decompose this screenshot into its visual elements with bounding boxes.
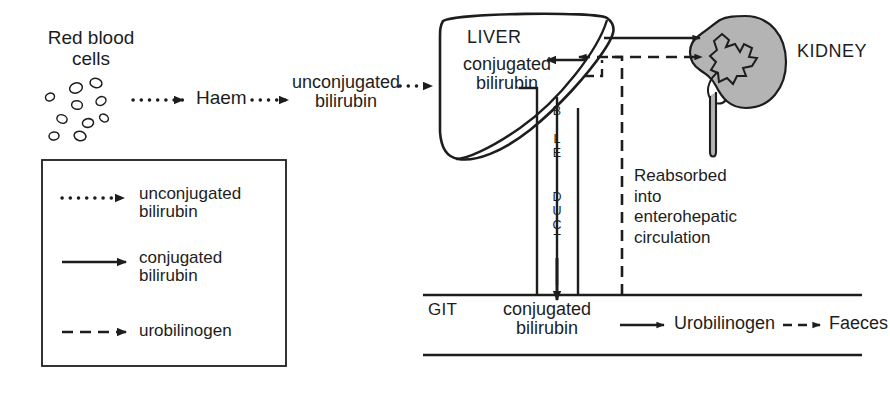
legend-item-1-line-2: bilirubin — [139, 267, 222, 285]
red-blood-cells-label: Red blood cells — [26, 28, 156, 69]
duct-letter-1: U — [552, 204, 561, 218]
rbc-line-2: cells — [26, 49, 156, 70]
unconjugated-bilirubin-label: unconjugated bilirubin — [288, 73, 404, 112]
ureter — [710, 92, 716, 157]
bilirubin-metabolism-diagram: Red blood cells Haem unconjugated biliru… — [0, 0, 890, 393]
rbc-line-1: Red blood — [26, 28, 156, 49]
legend-item-1-line-1: conjugated — [139, 249, 222, 267]
git-conj-line-2: bilirubin — [489, 319, 605, 338]
legend-item-0-label: unconjugated bilirubin — [139, 185, 241, 222]
liver-conjugated-bilirubin-label: conjugated bilirubin — [449, 55, 565, 94]
git-label: GIT — [428, 301, 457, 319]
liver-label: LIVER — [467, 28, 522, 47]
red-blood-cells-glyph — [44, 77, 110, 142]
reabsorbed-label: Reabsorbed into enterohepatic circulatio… — [634, 166, 737, 249]
liver-conj-line-2: bilirubin — [449, 74, 565, 93]
legend-item-1-label: conjugated bilirubin — [139, 249, 222, 286]
duct-letter-3: T — [553, 232, 561, 246]
bile-duct-label-top: B I L E — [550, 104, 564, 160]
kidney-label: KIDNEY — [797, 42, 867, 61]
bile-letter-2: L — [554, 132, 561, 146]
git-conj-line-1: conjugated — [489, 300, 605, 319]
reabsorbed-line-2: into — [634, 187, 737, 208]
bile-letter-1: I — [555, 118, 558, 132]
urobilinogen-label: Urobilinogen — [674, 314, 775, 333]
haem-label: Haem — [196, 88, 247, 109]
legend-item-0-line-1: unconjugated — [139, 185, 241, 203]
liver-conj-line-1: conjugated — [449, 55, 565, 74]
reabsorbed-line-3: enterohepatic — [634, 207, 737, 228]
bile-letter-0: B — [553, 104, 561, 118]
duct-letter-0: D — [552, 190, 561, 204]
unconjugated-line-1: unconjugated — [288, 73, 404, 92]
reabsorbed-line-1: Reabsorbed — [634, 166, 737, 187]
legend-item-0-line-2: bilirubin — [139, 203, 241, 221]
bile-letter-3: E — [553, 146, 561, 160]
reabsorbed-line-4: circulation — [634, 228, 737, 249]
legend-item-2-label: urobilinogen — [139, 322, 232, 340]
edge-urobilinogen-reabsorbed-to-liver — [579, 57, 622, 295]
legend-item-2-line-1: urobilinogen — [139, 322, 232, 340]
bile-duct-label-bottom: D U C T — [550, 190, 564, 246]
kidney-glyph — [690, 16, 786, 157]
git-conjugated-bilirubin-label: conjugated bilirubin — [489, 300, 605, 339]
unconjugated-line-2: bilirubin — [288, 92, 404, 111]
faeces-label: Faeces — [829, 314, 888, 333]
duct-letter-2: C — [552, 218, 561, 232]
